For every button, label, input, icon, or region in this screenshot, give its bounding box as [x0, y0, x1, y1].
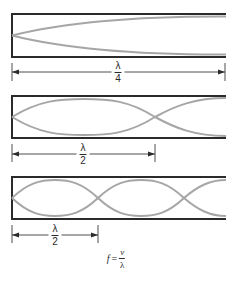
formula-denominator: λ: [120, 259, 124, 270]
tube-outline: [12, 176, 226, 220]
wave-envelope: [12, 180, 226, 216]
frequency-formula: f = v λ: [107, 247, 125, 270]
arrow-right-icon: [148, 152, 155, 157]
arrow-right-icon: [91, 233, 98, 238]
arrow-left-icon: [12, 70, 19, 75]
fraction-denominator: 4: [115, 73, 121, 84]
wave-upper: [12, 180, 226, 216]
fraction-numerator: λ: [52, 224, 59, 236]
label-quarter-wavelength: λ 4: [112, 61, 125, 84]
wave-envelope: [12, 98, 226, 136]
wave-lower: [12, 36, 226, 55]
panel-half-wave: [12, 95, 226, 162]
label-half-wavelength: λ 2: [77, 143, 90, 166]
standing-wave-diagram: [0, 0, 233, 285]
arrow-left-icon: [12, 152, 19, 157]
fraction-numerator: λ: [80, 143, 87, 155]
wave-upper: [12, 16, 226, 35]
wave-lower: [12, 180, 226, 216]
arrow-right-icon: [218, 70, 225, 75]
formula-equals: =: [112, 253, 118, 264]
formula-lhs: f: [107, 253, 110, 264]
wave-envelope: [12, 16, 226, 54]
label-half-wavelength-2: λ 2: [49, 224, 62, 247]
fraction-numerator: λ: [115, 61, 122, 73]
fraction-denominator: 2: [52, 236, 58, 247]
formula-fraction: v λ: [119, 247, 125, 270]
fraction-denominator: 2: [80, 155, 86, 166]
arrow-left-icon: [12, 233, 19, 238]
panel-full-wave: [12, 176, 226, 243]
formula-numerator: v: [119, 247, 125, 259]
